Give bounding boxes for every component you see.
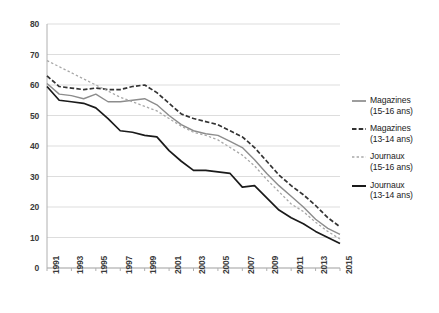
- legend-item-1[interactable]: Magazines(13-14 ans): [352, 123, 438, 144]
- x-tick-label-2013: 2013: [319, 256, 329, 274]
- legend-label-line2: (15-16 ans): [370, 106, 413, 117]
- legend-label: Journaux(15-16 ans): [370, 151, 413, 172]
- x-tick-label-1997: 1997: [124, 256, 134, 274]
- series-line-3: [47, 87, 340, 244]
- x-tick-label-1999: 1999: [148, 256, 158, 274]
- legend-label-line2: (13-14 ans): [370, 190, 413, 201]
- x-tick-label-2003: 2003: [197, 256, 207, 274]
- legend-swatch-icon: [352, 95, 366, 107]
- x-tick-label-2001: 2001: [173, 256, 183, 274]
- legend-label: Magazines(15-16 ans): [370, 95, 413, 116]
- y-tick-label-70: 70: [17, 50, 39, 60]
- legend-label-line1: Magazines: [370, 123, 411, 133]
- x-tick-label-2009: 2009: [270, 256, 280, 274]
- y-tick-label-10: 10: [17, 233, 39, 243]
- y-tick-label-40: 40: [17, 141, 39, 151]
- legend-item-0[interactable]: Magazines(15-16 ans): [352, 95, 438, 116]
- legend-label-line2: (15-16 ans): [370, 162, 413, 173]
- series-line-2: [47, 61, 340, 239]
- legend-label-line1: Journaux: [370, 180, 405, 190]
- legend-item-3[interactable]: Journaux(13-14 ans): [352, 180, 438, 201]
- y-tick-label-60: 60: [17, 80, 39, 90]
- x-tick-label-2011: 2011: [295, 256, 305, 274]
- y-tick-label-50: 50: [17, 111, 39, 121]
- legend-swatch-icon: [352, 151, 366, 163]
- line-chart: 80706050403020100 1991199319951997199920…: [0, 0, 439, 313]
- y-tick-label-0: 0: [17, 263, 39, 273]
- legend-label-line1: Magazines: [370, 95, 411, 105]
- legend-label-line1: Journaux: [370, 151, 405, 161]
- x-tick-label-1991: 1991: [51, 256, 61, 274]
- y-tick-label-30: 30: [17, 172, 39, 182]
- legend-swatch-icon: [352, 123, 366, 135]
- chart-legend: Magazines(15-16 ans)Magazines(13-14 ans)…: [352, 95, 438, 208]
- x-tick-label-1993: 1993: [75, 256, 85, 274]
- y-tick-label-80: 80: [17, 19, 39, 29]
- series-line-1: [47, 76, 340, 227]
- y-tick-label-20: 20: [17, 202, 39, 212]
- x-tick-label-2015: 2015: [344, 256, 354, 274]
- x-tick-label-2007: 2007: [246, 256, 256, 274]
- legend-label: Magazines(13-14 ans): [370, 123, 413, 144]
- legend-label: Journaux(13-14 ans): [370, 180, 413, 201]
- legend-label-line2: (13-14 ans): [370, 134, 413, 145]
- legend-item-2[interactable]: Journaux(15-16 ans): [352, 151, 438, 172]
- x-tick-label-1995: 1995: [99, 256, 109, 274]
- legend-swatch-icon: [352, 180, 366, 192]
- x-tick-label-2005: 2005: [221, 256, 231, 274]
